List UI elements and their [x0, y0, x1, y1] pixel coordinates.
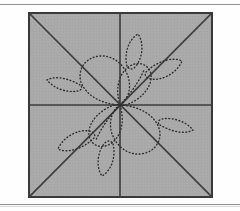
bottom-horizontal-rule-secondary [0, 206, 240, 207]
quilting-block-plate [28, 12, 213, 198]
pattern-svg [28, 12, 213, 198]
figure-root: Square quilting block with dotted floral… [0, 0, 240, 211]
bottom-horizontal-rule [0, 204, 240, 205]
top-horizontal-rule [0, 4, 240, 5]
